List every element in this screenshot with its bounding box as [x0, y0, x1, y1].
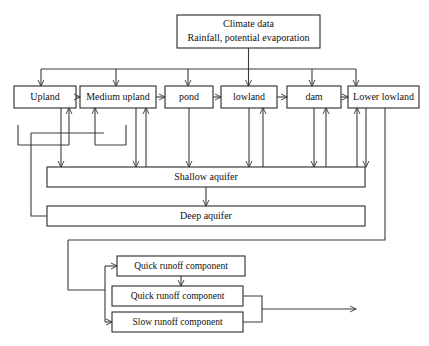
- land-unit-medium-upland: Medium upland: [80, 86, 156, 108]
- land-unit-label-medium-upland: Medium upland: [86, 91, 150, 102]
- runoff-label-quick-2: Quick runoff component: [131, 291, 225, 301]
- runoff-box-quick-2: Quick runoff component: [112, 286, 243, 306]
- land-unit-upland: Upland: [14, 86, 76, 108]
- land-unit-label-lower-lowland: Lower lowland: [353, 91, 414, 102]
- land-unit-pond: pond: [165, 86, 213, 108]
- deep-aquifer-box: Deep aquifer: [47, 206, 365, 226]
- hydrological-model-diagram: Climate data Rainfall, potential evapora…: [0, 0, 429, 346]
- runoff-box-quick-1: Quick runoff component: [117, 256, 245, 276]
- land-unit-lowland: lowland: [221, 86, 277, 108]
- runoff-merge-bracket: [243, 296, 262, 322]
- runoff-label-quick-1: Quick runoff component: [134, 261, 228, 271]
- land-unit-label-lowland: lowland: [233, 91, 265, 102]
- land-unit-label-dam: dam: [305, 91, 322, 102]
- shallow-aquifer-label: Shallow aquifer: [174, 171, 238, 182]
- shallow-aquifer-box: Shallow aquifer: [47, 167, 365, 187]
- diagram-canvas: Climate data Rainfall, potential evapora…: [0, 0, 429, 346]
- land-unit-label-pond: pond: [179, 91, 199, 102]
- climate-data-box: Climate data Rainfall, potential evapora…: [177, 15, 320, 48]
- deep-aquifer-label: Deep aquifer: [180, 210, 233, 221]
- land-unit-label-upland: Upland: [30, 91, 59, 102]
- climate-data-line1: Climate data: [223, 18, 274, 29]
- climate-data-line2: Rainfall, potential evaporation: [188, 32, 310, 43]
- return-elbow-medium-upland: [95, 125, 126, 145]
- land-unit-dam: dam: [287, 86, 341, 108]
- runoff-box-slow: Slow runoff component: [112, 312, 243, 332]
- runoff-label-slow: Slow runoff component: [132, 317, 222, 327]
- land-unit-lower-lowland: Lower lowland: [348, 86, 419, 108]
